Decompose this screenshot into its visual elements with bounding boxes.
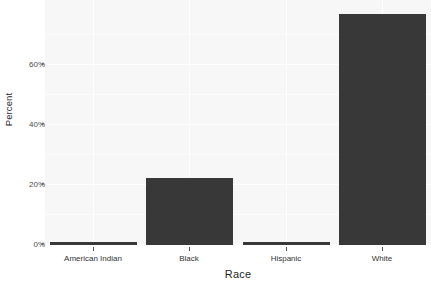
x-axis-title: Race xyxy=(45,268,431,280)
bar-white[interactable] xyxy=(339,14,426,245)
bar-black[interactable] xyxy=(146,178,233,245)
gridline-vertical-1 xyxy=(93,0,94,245)
y-axis-title: Percent xyxy=(3,80,14,140)
x-tick-label-2: Black xyxy=(179,254,199,263)
y-tick-label-60: 60% xyxy=(1,60,45,69)
bar-american-indian[interactable] xyxy=(50,242,137,245)
y-tick-mark-40 xyxy=(41,124,44,125)
x-tick-mark-1 xyxy=(93,247,94,251)
x-tick-label-4: White xyxy=(372,254,392,263)
y-tick-label-20: 20% xyxy=(1,180,45,189)
bar-hispanic[interactable] xyxy=(243,242,330,245)
y-tick-label-0: 0% xyxy=(1,240,45,249)
plot-panel xyxy=(45,0,431,245)
gridline-vertical-3 xyxy=(286,0,287,245)
x-tick-label-3: Hispanic xyxy=(271,254,302,263)
y-tick-mark-0 xyxy=(41,244,44,245)
x-tick-mark-4 xyxy=(382,247,383,251)
bar-chart: 0% 20% 40% 60% American Indian Black His… xyxy=(0,0,431,285)
y-tick-mark-20 xyxy=(41,184,44,185)
x-tick-mark-3 xyxy=(286,247,287,251)
y-tick-mark-60 xyxy=(41,64,44,65)
x-tick-label-1: American Indian xyxy=(64,254,122,263)
x-tick-mark-2 xyxy=(189,247,190,251)
